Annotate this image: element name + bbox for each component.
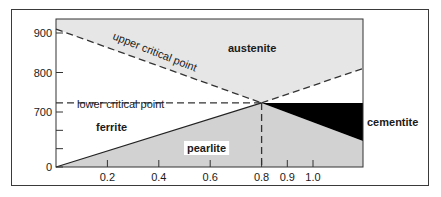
x-tick-label: 0.9 [280, 171, 295, 183]
x-tick-label: 1.0 [305, 171, 320, 183]
x-tick-label: 0.4 [151, 171, 166, 183]
x-tick-label: 0.6 [203, 171, 218, 183]
y-tick-label: 700 [34, 106, 52, 118]
y-tick-label: 800 [34, 67, 52, 79]
phase-diagram: 90080070000.20.40.60.80.91.0 austenite f… [0, 0, 441, 197]
x-tick-label: 0.2 [100, 171, 115, 183]
line-label-lower-critical-point: lower critical point [77, 98, 164, 110]
region-label-pearlite: pearlite [187, 142, 226, 154]
region-label-austenite: austenite [228, 42, 276, 54]
region-label-cementite: cementite [367, 116, 418, 128]
y-tick-label: 900 [34, 27, 52, 39]
x-tick-label: 0.8 [254, 171, 269, 183]
y-tick-label: 0 [46, 161, 52, 173]
region-label-ferrite: ferrite [96, 121, 127, 133]
